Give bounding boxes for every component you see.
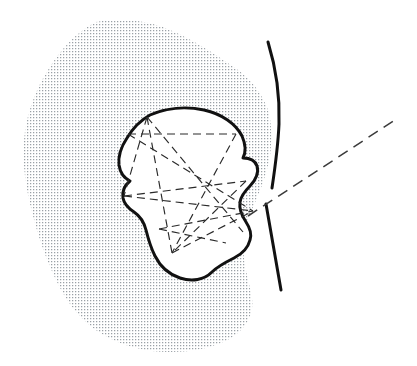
diagram-canvas bbox=[0, 0, 417, 366]
figure-root bbox=[0, 0, 417, 366]
